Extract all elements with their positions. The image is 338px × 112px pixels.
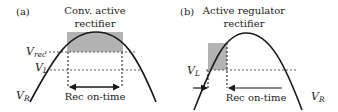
rectifier-comparison-diagram: (a) Conv. active rectifier Vrec VL VR Re… (0, 0, 338, 112)
panel-b-vr-label: VR (311, 90, 325, 104)
panel-b-on-time-label: Rec on-time (226, 92, 287, 103)
panel-a-on-time-label: Rec on-time (65, 91, 126, 102)
panel-a: (a) Conv. active rectifier Vrec VL VR Re… (16, 5, 156, 103)
panel-b-title-line1: Active regulator (202, 5, 286, 16)
panel-a-shaded-region (67, 32, 123, 52)
panel-a-vl-label: VL (35, 61, 48, 75)
panel-a-vr-label: VR (16, 89, 30, 103)
panel-b-vl-label: VL (187, 64, 200, 78)
panel-b-label: (b) (180, 6, 194, 17)
panel-a-label: (a) (16, 6, 30, 17)
panel-a-title-line1: Conv. active (64, 5, 125, 16)
panel-a-title-line2: rectifier (75, 18, 116, 29)
panel-a-vrec-label: Vrec (26, 45, 47, 59)
panel-b-title-line2: rectifier (224, 18, 265, 29)
panel-b: (b) Active regulator rectifier VL VR Rec… (180, 5, 325, 110)
